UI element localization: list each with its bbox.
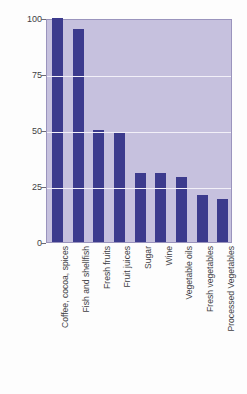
y-tick-label: 25 xyxy=(20,183,42,192)
y-tick-mark xyxy=(41,75,46,76)
x-tick-label: Coffee, cocoa, spices xyxy=(60,246,72,386)
bar xyxy=(176,177,187,242)
y-tick-label: 100 xyxy=(20,15,42,24)
y-tick-mark xyxy=(41,131,46,132)
y-tick-label: 50 xyxy=(20,127,42,136)
gridline xyxy=(47,76,231,77)
x-tick-label: Fruit juices xyxy=(122,246,134,386)
y-tick-mark xyxy=(41,19,46,20)
bar xyxy=(73,29,84,242)
y-tick-mark xyxy=(41,187,46,188)
x-tick-label: Wine xyxy=(164,246,176,386)
bar xyxy=(217,199,228,242)
bar xyxy=(93,130,104,242)
x-tick-label: Fish and shellfish xyxy=(81,246,93,386)
bar xyxy=(52,18,63,242)
y-tick-label: 75 xyxy=(20,71,42,80)
x-tick-label: Sugar xyxy=(143,246,155,386)
bar xyxy=(155,173,166,242)
bar xyxy=(197,195,208,242)
x-tick-label: Fresh vegetables xyxy=(205,246,217,386)
bar-series xyxy=(47,20,231,242)
y-axis-tick-labels: 0255075100 xyxy=(18,0,42,394)
plot-area xyxy=(46,19,232,243)
bar xyxy=(135,173,146,242)
x-axis-tick-labels: Coffee, cocoa, spicesFish and shellfishF… xyxy=(46,246,232,394)
bar-chart-figure: Percent by volume 0255075100 Coffee, coc… xyxy=(0,0,247,394)
y-tick-label: 0 xyxy=(20,239,42,248)
x-tick-label: Vegetable oils xyxy=(184,246,196,386)
gridline xyxy=(47,188,231,189)
y-tick-mark xyxy=(41,243,46,244)
x-tick-label: Fresh fruits xyxy=(102,246,114,386)
gridline xyxy=(47,132,231,133)
x-tick-label: Processed Vegetables xyxy=(226,246,238,386)
